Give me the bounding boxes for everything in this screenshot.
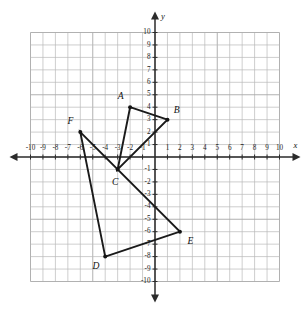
y-axis-tick-label: 4 (147, 103, 151, 111)
y-axis-label: y (160, 11, 165, 21)
y-axis-arrow-up (151, 12, 159, 20)
x-axis-tick-label: 10 (276, 144, 284, 152)
vertex-point-d (103, 255, 107, 259)
y-axis-tick-label: 2 (147, 128, 151, 136)
y-axis-tick-label: 9 (147, 41, 151, 49)
vertex-label-a: A (117, 90, 124, 101)
y-axis-tick-label: 7 (147, 66, 151, 74)
y-axis-tick-label: -8 (145, 252, 151, 260)
y-axis-tick-label: -1 (145, 165, 151, 173)
y-axis-arrow-down (151, 295, 159, 303)
y-axis-tick-label: -5 (145, 215, 151, 223)
y-axis-tick-label: 5 (147, 90, 151, 98)
x-axis-tick-label: -8 (52, 144, 58, 152)
coordinate-plane-svg: -10-9-8-7-6-5-4-3-2-112345678910-10-9-8-… (0, 0, 306, 310)
x-axis-tick-label: 2 (178, 144, 182, 152)
vertex-label-f: F (66, 115, 73, 126)
vertex-point-c (116, 167, 120, 171)
x-axis-tick-label: 5 (215, 144, 219, 152)
y-axis-tick-label: -4 (145, 202, 151, 210)
y-axis-tick-label: 6 (147, 78, 151, 86)
x-axis-tick-label: -3 (115, 144, 121, 152)
vertex-point-e (178, 230, 182, 234)
vertex-point-a (128, 105, 132, 109)
vertex-label-b: B (174, 104, 180, 115)
vertex-label-d: D (91, 260, 99, 271)
x-axis-tick-label: -2 (127, 144, 133, 152)
axes (10, 12, 301, 303)
x-axis-arrow-right (293, 153, 301, 161)
y-axis-tick-label: 1 (147, 140, 151, 148)
x-axis-tick-label: 6 (228, 144, 232, 152)
x-axis-tick-label: 4 (203, 144, 207, 152)
y-axis-tick-label: -9 (145, 265, 151, 273)
x-axis-tick-label: 1 (166, 144, 170, 152)
y-axis-tick-label: -2 (145, 178, 151, 186)
coordinate-plane-figure: -10-9-8-7-6-5-4-3-2-112345678910-10-9-8-… (0, 0, 306, 310)
vertex-point-b (165, 118, 169, 122)
x-axis-arrow-left (10, 153, 18, 161)
y-axis-tick-label: -6 (145, 227, 151, 235)
vertex-label-e: E (187, 235, 194, 246)
y-axis-tick-label: 3 (147, 115, 151, 123)
x-axis-tick-label: 8 (253, 144, 257, 152)
vertex-label-c: C (112, 176, 119, 187)
x-axis-tick-label: -7 (65, 144, 71, 152)
x-axis-label: x (293, 140, 298, 150)
x-axis-tick-label: 9 (265, 144, 269, 152)
x-axis-tick-label: 3 (191, 144, 195, 152)
x-axis-tick-label: 7 (240, 144, 244, 152)
x-axis-tick-label: -9 (40, 144, 46, 152)
vertex-point-f (78, 130, 82, 134)
y-axis-tick-label: -10 (141, 277, 151, 285)
y-axis-tick-label: 8 (147, 53, 151, 61)
x-axis-tick-label: -4 (102, 144, 108, 152)
y-axis-tick-label: 10 (143, 28, 151, 36)
x-axis-tick-label: -10 (26, 144, 36, 152)
